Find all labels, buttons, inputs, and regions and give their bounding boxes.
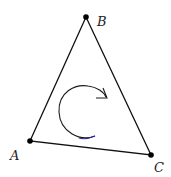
vertex-c-label: C (154, 160, 164, 175)
vertex-a-dot (27, 138, 33, 144)
triangle-diagram: A B C (0, 0, 171, 177)
diagram-svg: A B C (0, 0, 171, 177)
vertex-b-dot (83, 14, 89, 20)
vertex-c-dot (148, 152, 154, 158)
clockwise-arrow-arc (59, 86, 106, 138)
vertex-b-label: B (96, 14, 107, 29)
vertex-a-label: A (9, 148, 19, 163)
